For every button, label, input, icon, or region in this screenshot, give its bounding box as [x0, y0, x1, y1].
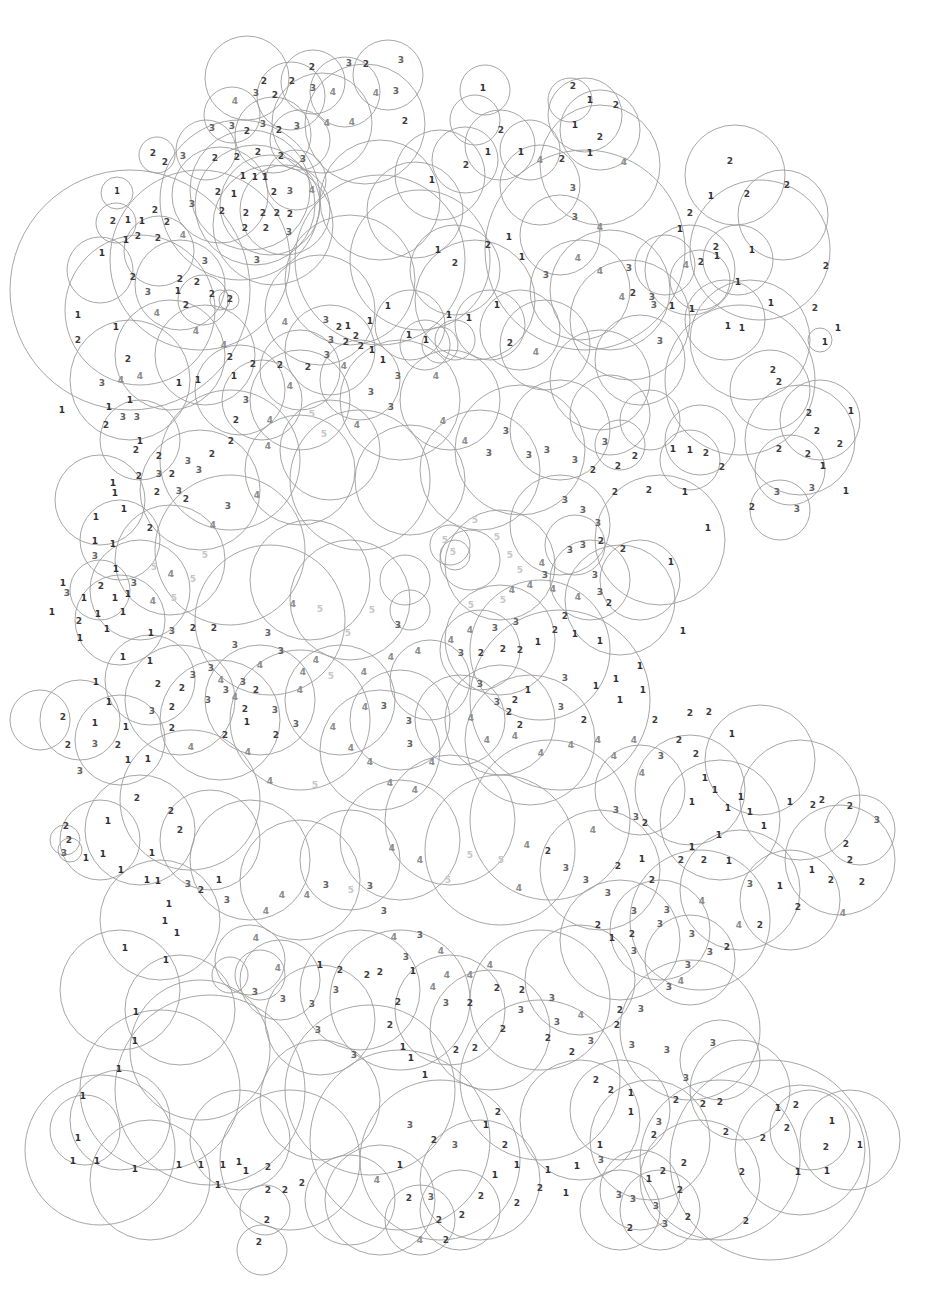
number-label: 4: [389, 843, 395, 853]
number-label: 1: [123, 722, 129, 732]
number-label: 2: [651, 1130, 657, 1140]
number-label: 1: [110, 478, 116, 488]
number-label: 2: [103, 420, 109, 430]
number-label: 2: [673, 1095, 679, 1105]
circle-outline: [320, 140, 440, 260]
number-label: 1: [519, 252, 525, 262]
number-label: 1: [175, 286, 181, 296]
number-label: 4: [330, 722, 336, 732]
number-label: 1: [125, 215, 131, 225]
number-label: 4: [263, 906, 269, 916]
number-label: 4: [575, 253, 581, 263]
number-label: 4: [267, 415, 273, 425]
number-label: 1: [243, 1166, 249, 1176]
number-label: 3: [428, 1192, 434, 1202]
number-label: 4: [683, 260, 689, 270]
number-label: 4: [840, 908, 846, 918]
number-label: 2: [810, 800, 816, 810]
number-label: 2: [719, 462, 725, 472]
number-label: 1: [795, 1167, 801, 1177]
number-label: 3: [662, 1219, 668, 1229]
number-label: 4: [611, 751, 617, 761]
number-label: 4: [597, 266, 603, 276]
circle-outline: [195, 545, 345, 695]
number-label: 4: [444, 970, 450, 980]
number-label: 3: [254, 255, 260, 265]
number-label: 3: [631, 946, 637, 956]
number-label: 3: [554, 1017, 560, 1027]
number-label: 2: [537, 1183, 543, 1193]
number-label: 2: [152, 205, 158, 215]
number-label: 1: [574, 1161, 580, 1171]
number-label: 2: [612, 487, 618, 497]
number-label: 1: [680, 626, 686, 636]
number-label: 5: [442, 535, 448, 545]
number-label: 2: [784, 1123, 790, 1133]
number-label: 1: [80, 1091, 86, 1101]
number-label: 4: [232, 692, 238, 702]
number-label: 5: [500, 595, 506, 605]
number-label: 2: [717, 1097, 723, 1107]
number-label: 3: [293, 719, 299, 729]
number-label: 1: [563, 1188, 569, 1198]
number-label: 3: [225, 501, 231, 511]
circle-outline: [155, 475, 305, 625]
number-label: 1: [739, 323, 745, 333]
number-label: 3: [572, 455, 578, 465]
number-label: 1: [593, 681, 599, 691]
number-label: 2: [559, 154, 565, 164]
number-label: 3: [633, 812, 639, 822]
number-label: 3: [309, 999, 315, 1009]
number-label: 3: [229, 121, 235, 131]
number-label: 2: [776, 444, 782, 454]
number-label: 1: [81, 593, 87, 603]
circle-outline: [60, 930, 180, 1050]
number-label: 3: [260, 119, 266, 129]
number-label: 2: [134, 793, 140, 803]
number-label: 2: [500, 1024, 506, 1034]
number-label: 3: [328, 335, 334, 345]
number-label: 3: [657, 919, 663, 929]
number-label: 2: [150, 148, 156, 158]
number-label: 2: [646, 485, 652, 495]
number-label: 4: [150, 596, 156, 606]
number-label: 3: [368, 387, 374, 397]
number-label: 2: [253, 685, 259, 695]
number-label: 2: [337, 965, 343, 975]
number-label: 1: [640, 685, 646, 695]
number-label: 1: [777, 881, 783, 891]
number-label: 4: [619, 292, 625, 302]
number-label: 4: [433, 371, 439, 381]
number-label: 4: [597, 222, 603, 232]
circle-outline: [110, 170, 290, 350]
number-label: 4: [417, 1235, 423, 1245]
number-label: 3: [629, 1040, 635, 1050]
number-label: 4: [193, 326, 199, 336]
circle-outline: [65, 235, 215, 385]
number-label: 3: [209, 123, 215, 133]
number-label: 4: [362, 702, 368, 712]
number-label: 4: [282, 317, 288, 327]
number-label: 1: [231, 189, 237, 199]
number-label: 4: [430, 982, 436, 992]
number-label: 3: [393, 86, 399, 96]
number-label: 2: [265, 1185, 271, 1195]
number-label: 3: [272, 705, 278, 715]
number-label: 4: [313, 655, 319, 665]
number-label: 2: [164, 217, 170, 227]
number-label: 3: [286, 227, 292, 237]
number-label: 2: [155, 233, 161, 243]
number-label: 2: [136, 471, 142, 481]
number-label: 2: [590, 465, 596, 475]
number-label: 3: [710, 1038, 716, 1048]
circle-outline: [800, 1090, 900, 1190]
number-label: 2: [271, 187, 277, 197]
number-label: 1: [768, 298, 774, 308]
number-label: 3: [562, 673, 568, 683]
number-label: 2: [632, 451, 638, 461]
number-label: 4: [512, 731, 518, 741]
number-label: 4: [232, 96, 238, 106]
number-label: 3: [131, 578, 137, 588]
number-label: 2: [615, 861, 621, 871]
number-label: 2: [847, 855, 853, 865]
